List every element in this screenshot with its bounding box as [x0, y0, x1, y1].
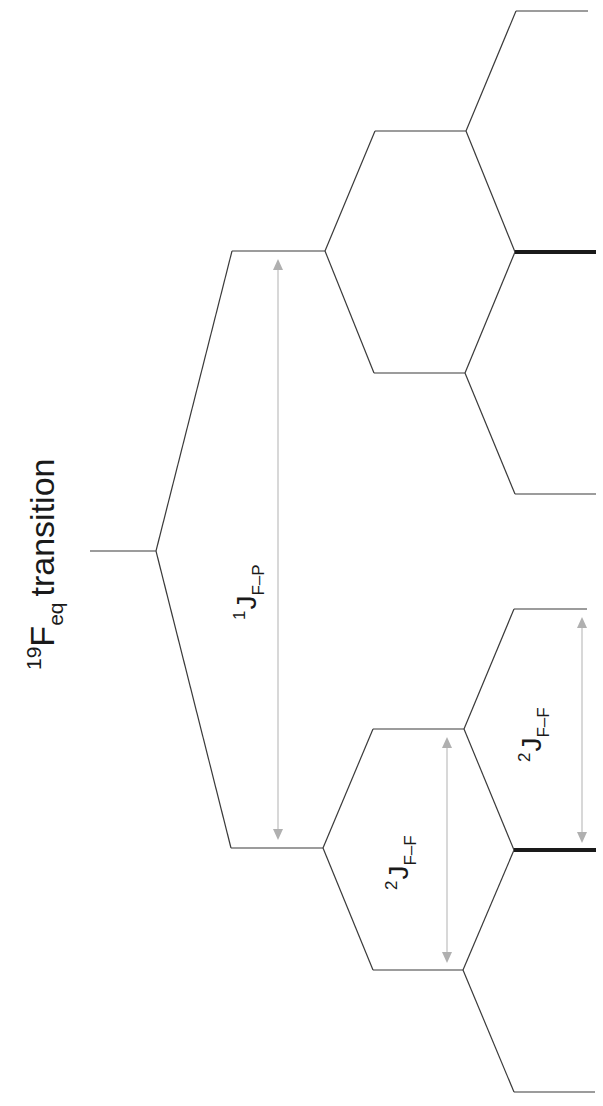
connector-tier2-b — [325, 251, 374, 373]
svg-text:19Feqtransition: 19Feqtransition — [22, 459, 67, 670]
connector-tier3-2 — [466, 131, 515, 252]
title: 19Feqtransition — [22, 459, 67, 670]
label-jff-a: 2JF–F — [382, 835, 420, 890]
title-subscript: eq — [44, 603, 67, 626]
connector-tier2-c — [323, 729, 373, 848]
title-word: transition — [23, 459, 61, 597]
label-jff-b: 2JF–F — [515, 707, 553, 762]
arrowhead-down-icon — [577, 832, 587, 843]
splitting-tree-diagram: 19Feqtransition 1JF–P 2JF–F 2JF–F — [0, 0, 603, 1106]
label-jfp: 1JF–P — [230, 564, 268, 620]
connector-tier3-3 — [465, 252, 515, 373]
connector-tier2-d — [323, 848, 373, 970]
arrowhead-down-icon — [442, 952, 452, 963]
connector-tier3-5 — [464, 609, 514, 729]
connector-tier1-upper — [156, 251, 232, 551]
svg-text:1JF–P: 1JF–P — [230, 564, 268, 620]
svg-text:2JF–F: 2JF–F — [382, 835, 420, 890]
connector-tier3-7 — [463, 850, 514, 970]
arrowhead-up-icon — [577, 617, 587, 628]
arrowhead-down-icon — [273, 829, 283, 840]
arrowhead-up-icon — [442, 737, 452, 748]
title-element: F — [23, 626, 61, 647]
connector-tier1-lower — [156, 551, 231, 848]
title-isotope: 19 — [22, 647, 45, 670]
connector-tier3-1 — [466, 11, 516, 131]
connector-tier3-6 — [464, 729, 514, 850]
arrowhead-up-icon — [273, 259, 283, 270]
connector-tier3-8 — [463, 970, 514, 1092]
svg-text:2JF–F: 2JF–F — [515, 707, 553, 762]
connector-tier3-4 — [465, 373, 515, 494]
connector-tier2-a — [325, 131, 375, 251]
